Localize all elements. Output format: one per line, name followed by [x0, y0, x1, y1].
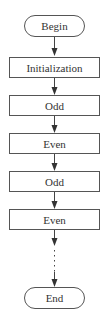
odd-node-1: Odd	[9, 95, 100, 116]
flow-connectors	[0, 0, 108, 320]
arrowhead-icon	[52, 279, 58, 287]
arrowhead-icon	[52, 201, 58, 209]
arrowhead-icon	[52, 238, 58, 246]
arrowhead-icon	[52, 163, 58, 171]
arrowhead-icon	[52, 87, 58, 95]
even-label-1: Even	[43, 138, 66, 150]
odd-node-2: Odd	[9, 171, 100, 192]
even-node-1: Even	[9, 133, 100, 154]
arrowhead-icon	[52, 48, 58, 56]
arrowhead-icon	[52, 125, 58, 133]
end-node: End	[24, 287, 85, 309]
even-node-2: Even	[9, 209, 100, 230]
initialization-label: Initialization	[26, 62, 82, 74]
begin-node: Begin	[24, 15, 85, 37]
odd-label-2: Odd	[45, 176, 64, 188]
begin-label: Begin	[41, 20, 67, 32]
initialization-node: Initialization	[9, 57, 100, 78]
end-label: End	[46, 292, 64, 304]
even-label-2: Even	[43, 214, 66, 226]
odd-label-1: Odd	[45, 100, 64, 112]
